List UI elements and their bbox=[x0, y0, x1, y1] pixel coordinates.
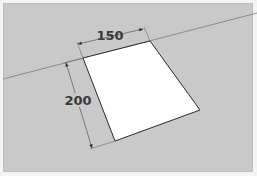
height-extension-top bbox=[63, 58, 83, 63]
width-dimension-label: 150 bbox=[96, 28, 123, 43]
width-extension-right bbox=[144, 27, 150, 41]
rectangle-face[interactable] bbox=[83, 41, 200, 141]
diagram-canvas: 150 200 bbox=[0, 0, 257, 176]
diagram-svg: 150 200 bbox=[0, 0, 257, 176]
height-dimension-label: 200 bbox=[64, 93, 91, 108]
height-extension-bottom bbox=[90, 141, 115, 149]
width-extension-left bbox=[77, 42, 83, 58]
